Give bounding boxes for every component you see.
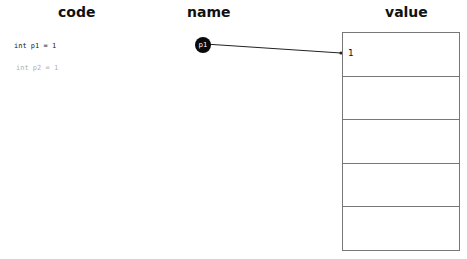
memory-cell-3 xyxy=(343,164,459,208)
memory-cell-value: 1 xyxy=(348,48,354,58)
memory-cell-0: 1 xyxy=(343,33,459,77)
memory-cell-4 xyxy=(343,207,459,251)
memory-cell-1 xyxy=(343,77,459,121)
memory-cell-2 xyxy=(343,120,459,164)
name-node-p1: p1 xyxy=(195,37,211,53)
memory-table: 1 xyxy=(342,32,460,251)
